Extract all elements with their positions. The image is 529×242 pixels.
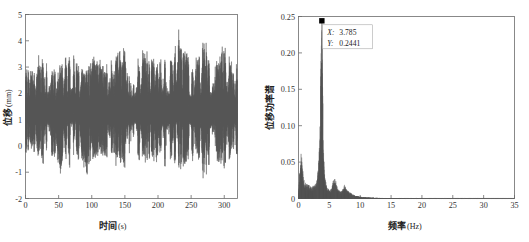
x-tick-label: 0 <box>23 201 27 210</box>
displacement-trace <box>26 30 238 179</box>
y-tick-label: 0 <box>291 195 295 204</box>
x-axis-unit-time: (s) <box>118 222 127 231</box>
x-tick-label: 25 <box>449 201 457 210</box>
x-tick-label: 0 <box>296 201 300 210</box>
x-tick-label: 100 <box>86 201 98 210</box>
peak-annotation: X: 3.785 Y: 0.2441 <box>319 18 372 63</box>
annotation-x-key: X: <box>326 28 334 37</box>
y-tick-label: 0.05 <box>281 158 295 167</box>
y-axis-label-group-power-spectrum: 位移功率谱 <box>264 85 275 130</box>
x-axis-label-frequency: 频率 <box>388 220 406 231</box>
x-tick-label: 200 <box>152 201 164 210</box>
x-tick-label: 30 <box>480 201 488 210</box>
chart-displacement-time-history: 050100150200250300-2-1012345 时间 (s) 位移 (… <box>0 0 262 242</box>
y-tick-label: 1 <box>18 116 22 125</box>
x-tick-label: 50 <box>55 201 63 210</box>
y-axis-label-power-spectrum: 位移功率谱 <box>264 85 275 130</box>
x-tick-label: 5 <box>327 201 331 210</box>
x-tick-label: 15 <box>387 201 395 210</box>
y-tick-label: 0.25 <box>281 13 295 22</box>
y-tick-label: 3 <box>18 63 22 72</box>
y-tick-label: -2 <box>15 195 22 204</box>
y-tick-label: 4 <box>18 37 22 46</box>
x-axis-unit-frequency: (Hz) <box>407 222 422 231</box>
x-tick-label: 300 <box>218 201 230 210</box>
y-tick-label: 2 <box>18 89 22 98</box>
power-spectrum-tick-labels: 0510152025303500.050.100.150.200.25 <box>281 13 519 210</box>
y-tick-label: 0.15 <box>281 85 295 94</box>
annotation-x-value: 3.785 <box>339 28 356 37</box>
figure-container: 050100150200250300-2-1012345 时间 (s) 位移 (… <box>0 0 529 242</box>
y-tick-label: 0.10 <box>281 122 295 131</box>
time-history-svg: 050100150200250300-2-1012345 时间 (s) 位移 (… <box>0 0 262 242</box>
power-spectrum-svg: 0510152025303500.050.100.150.200.25 X: 3… <box>262 0 529 242</box>
y-tick-label: 5 <box>18 11 22 20</box>
x-axis-label-time: 时间 <box>99 220 117 231</box>
y-tick-label: 0.20 <box>281 49 295 58</box>
annotation-y-value: 0.2441 <box>339 39 360 48</box>
y-axis-label-displacement: 位移 <box>2 108 13 126</box>
x-tick-label: 10 <box>356 201 364 210</box>
x-tick-label: 150 <box>119 201 131 210</box>
y-tick-label: 0 <box>18 142 22 151</box>
time-history-trace-group <box>26 30 238 179</box>
x-tick-label: 35 <box>510 201 518 210</box>
chart-displacement-power-spectrum: 0510152025303500.050.100.150.200.25 X: 3… <box>262 0 529 242</box>
x-tick-label: 250 <box>185 201 197 210</box>
x-tick-label: 20 <box>418 201 426 210</box>
y-axis-label-group-displacement: 位移 (mm) <box>2 89 13 126</box>
peak-marker-square <box>319 18 324 23</box>
y-axis-unit-displacement: (mm) <box>4 89 13 107</box>
y-tick-label: -1 <box>15 168 22 177</box>
annotation-y-key: Y: <box>327 39 333 48</box>
